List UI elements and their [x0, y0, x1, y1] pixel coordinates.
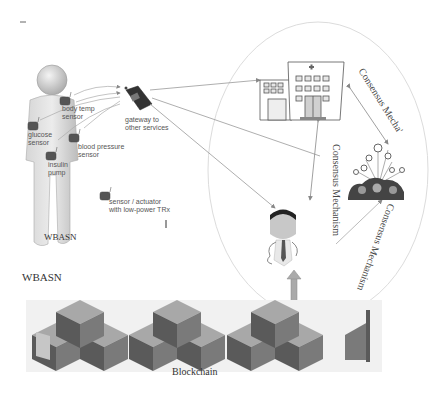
glucose-label: glucosesensor: [28, 131, 52, 147]
blockchain-label: Blockchain: [172, 366, 218, 377]
legend-label: sensor / actuatorwith low-power TRx: [109, 198, 170, 214]
wbasn-caption: WBASN: [44, 232, 77, 242]
blood-pressure-label: blood pressuresensor: [78, 143, 124, 159]
diagram-svg: [0, 0, 448, 396]
insulin-pump-label: insulinpump: [48, 161, 68, 177]
insulin-pump-icon: [46, 152, 56, 160]
hospital-doctor-link: [310, 122, 318, 200]
hospital-icon: [260, 62, 344, 120]
blood-pressure-sensor-icon: [69, 134, 79, 142]
wbasn-side-label: WBASN: [22, 271, 62, 283]
body-temp-label: body tempsensor: [62, 105, 95, 121]
body-temp-sensor-icon: [60, 97, 70, 105]
consensus-label-hospital-doctor: Consensus Mechanism: [331, 144, 342, 236]
community-icon: [348, 144, 405, 200]
diagram-canvas: [0, 0, 448, 396]
gateway-phone-icon: [125, 86, 153, 110]
glucose-sensor-icon: [28, 122, 38, 130]
doctor-icon: [267, 210, 297, 267]
gateway-label: gateway toother services: [125, 116, 169, 132]
